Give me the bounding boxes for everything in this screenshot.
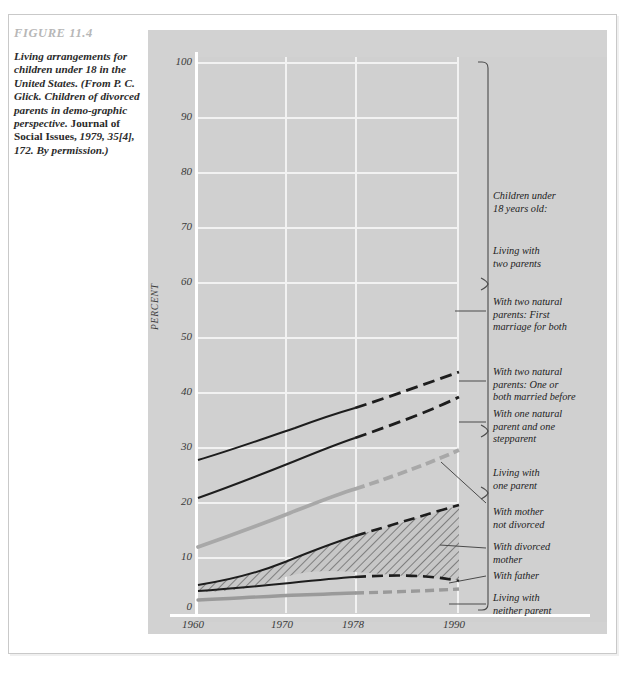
annotation-with-father: With father xyxy=(493,570,539,583)
line-with-mother-not-divorced-dashed xyxy=(355,450,459,489)
line-living-with-neither-parent-solid xyxy=(198,593,355,600)
y-axis-label: PERCENT xyxy=(150,283,160,330)
x-tick-1990: 1990 xyxy=(443,618,465,630)
leader-mother-not-divorced xyxy=(441,462,486,503)
bracket-notch-one-parent-lower xyxy=(481,487,488,499)
bracket-notch-living-with-one-parent xyxy=(481,425,488,437)
bracket-children-under-18 xyxy=(478,62,488,610)
y-tick-0: 0 xyxy=(158,600,192,612)
line-with-mother-not-divorced-solid xyxy=(198,489,355,547)
y-tick-60: 60 xyxy=(158,275,192,287)
line-one-natural-one-stepparent-solid xyxy=(198,438,355,498)
annotation-living-with-two-parents: Living with two parents xyxy=(493,245,541,270)
annotation-children-under-18: Children under 18 years old: xyxy=(493,190,556,215)
y-tick-70: 70 xyxy=(158,220,192,232)
y-tick-50: 50 xyxy=(158,330,192,342)
line-two-natural-one-or-both-married-before-dashed xyxy=(355,372,459,408)
figure-page: FIGURE 11.4 Living arrangements for chil… xyxy=(0,0,630,675)
y-tick-20: 20 xyxy=(158,495,192,507)
bracket-notch-living-with-two-parents xyxy=(481,278,488,290)
annotation-one-natural-one-stepparent: With one natural parent and one steppare… xyxy=(493,408,562,446)
x-tick-1960: 1960 xyxy=(182,618,204,630)
y-tick-30: 30 xyxy=(158,440,192,452)
x-tick-1970: 1970 xyxy=(271,618,293,630)
annotation-living-with-one-parent: Living with one parent xyxy=(493,467,540,492)
annotation-with-mother-not-divorced: With mother not divorced xyxy=(493,506,544,531)
annotation-with-divorced-mother: With divorced mother xyxy=(493,541,550,566)
line-one-natural-one-stepparent-dashed xyxy=(355,397,459,438)
y-tick-100: 100 xyxy=(158,55,192,67)
annotation-two-natural-first-marriage: With two natural parents: First marriage… xyxy=(493,296,567,334)
y-tick-10: 10 xyxy=(158,550,192,562)
y-tick-80: 80 xyxy=(158,165,192,177)
x-tick-1978: 1978 xyxy=(342,618,364,630)
line-two-natural-one-or-both-married-before-solid xyxy=(198,408,355,460)
line-living-with-neither-parent-dashed xyxy=(355,589,459,593)
annotation-living-with-neither-parent: Living with neither parent xyxy=(493,592,551,617)
y-tick-90: 90 xyxy=(158,110,192,122)
y-tick-40: 40 xyxy=(158,385,192,397)
annotation-two-natural-one-or-both: With two natural parents: One or both ma… xyxy=(493,366,576,404)
